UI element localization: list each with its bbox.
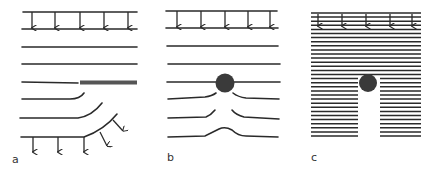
field-line — [168, 93, 216, 99]
panel-label-a: a — [12, 153, 19, 166]
field-line — [233, 93, 279, 99]
field-line — [168, 110, 215, 118]
panel-label-c: c — [311, 151, 317, 164]
obstacle — [216, 74, 235, 93]
arrows-top — [177, 11, 270, 27]
diagonal-arrow-icon — [100, 132, 107, 146]
field-line — [22, 82, 78, 83]
field-line — [22, 93, 84, 99]
field-line — [232, 110, 279, 119]
arrows-top — [32, 12, 128, 28]
obstacle — [359, 74, 377, 92]
panel-c: c — [311, 13, 421, 164]
panel-label-b: b — [167, 151, 174, 164]
panel-b: b — [166, 11, 280, 164]
field-line — [168, 128, 278, 137]
diagonal-arrow-icon — [113, 120, 123, 131]
field-line — [20, 103, 102, 118]
arrows-top — [318, 14, 412, 26]
panel-a: a — [12, 12, 137, 166]
arrows-bottom — [33, 120, 123, 152]
diagram: a b c — [0, 0, 445, 175]
